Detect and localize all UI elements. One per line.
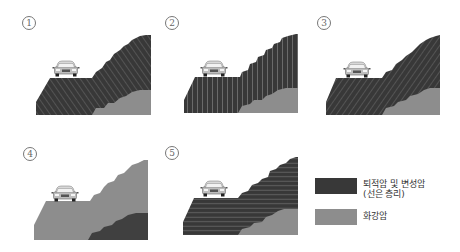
panel-1: 1 (0, 0, 160, 125)
panel-4: 4 (0, 125, 160, 252)
car-icon (201, 181, 228, 197)
legend-label-granite: 화강암 (363, 211, 387, 221)
cliff-diagram-3 (300, 0, 460, 125)
panel-5: 5 (150, 125, 310, 252)
panel-2: 2 (150, 0, 310, 125)
cliff-diagram-2 (150, 0, 310, 125)
legend-swatch-granite (315, 209, 357, 225)
cliff-diagram-5 (150, 125, 310, 252)
cliff-diagram-4 (0, 125, 160, 252)
legend-sublabel-sedimentary: (선은 층리) (363, 189, 405, 199)
cliff-diagram-1 (0, 0, 160, 125)
car-icon (53, 61, 80, 77)
car-icon (344, 62, 371, 78)
car-icon (52, 186, 79, 202)
panel-3: 3 (300, 0, 460, 125)
legend-swatch-sedimentary (315, 178, 357, 194)
car-icon (201, 61, 228, 77)
legend-label-sedimentary: 퇴적암 및 변성암 (363, 179, 425, 189)
